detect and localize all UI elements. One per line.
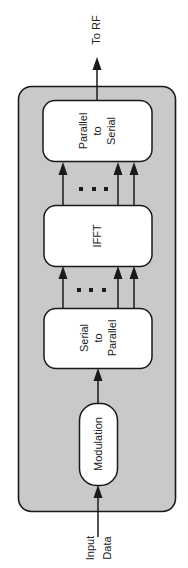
parallel-to-serial-line3: Serial — [105, 117, 117, 145]
serial-to-parallel-line3: Parallel — [106, 320, 118, 357]
ofdm-diagram: To RF Parallel to Serial IFFT — [0, 0, 188, 568]
input-label-line2: Data — [101, 536, 113, 560]
serial-to-parallel-line2: to — [92, 333, 104, 342]
output-label: To RF — [90, 15, 102, 45]
parallel-to-serial-line1: Parallel — [77, 113, 89, 150]
ifft-label: IFFT — [91, 224, 103, 247]
parallel-to-serial-line2: to — [91, 126, 103, 135]
modulation-label: Modulation — [92, 417, 104, 471]
input-label-line1: Input — [84, 536, 96, 560]
serial-to-parallel-line1: Serial — [78, 324, 90, 352]
